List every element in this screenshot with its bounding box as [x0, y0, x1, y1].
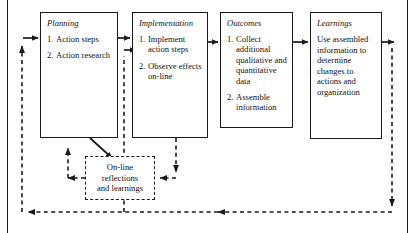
list-item: 2. Action research [47, 50, 112, 60]
item-number: 2. [139, 61, 148, 82]
diagram-canvas: Planning 1. Action steps 2. Action resea… [0, 0, 417, 233]
list-item: 2. Observe effects on-line [139, 61, 202, 82]
stage-title-planning: Planning [47, 18, 112, 29]
list-item: 2. Assemble information [227, 92, 287, 113]
list-item: 1. Collect additional qualitative and qu… [227, 34, 287, 86]
arrow-planning-to-reflections [90, 138, 112, 158]
item-text: Implement action steps [148, 34, 202, 55]
item-number: 2. [47, 50, 56, 60]
item-number: 1. [227, 34, 236, 86]
stage-box-outcomes: Outcomes 1. Collect additional qualitati… [220, 12, 293, 128]
item-number: 1. [47, 34, 56, 44]
item-text: Observe effects on-line [148, 61, 202, 82]
stage-box-learnings: Learnings Use assembled information to d… [310, 12, 382, 139]
stage-items-planning: 1. Action steps 2. Action research [47, 34, 112, 61]
stage-title-learnings: Learnings [317, 18, 376, 29]
list-item: 1. Implement action steps [139, 34, 202, 55]
stage-body-learnings: Use assembled information to determine c… [317, 34, 376, 98]
stage-title-outcomes: Outcomes [227, 18, 287, 29]
feedback-implementation-to-reflections [160, 138, 176, 178]
item-text: Action research [56, 50, 112, 60]
stage-title-implementation: Implementation [139, 18, 202, 29]
feedback-reflections-to-planning [68, 148, 85, 178]
feedback-box-text: On-line reflections and learnings [97, 162, 143, 194]
feedback-line-3: and learnings [97, 183, 143, 194]
feedback-box-online-reflections: On-line reflections and learnings [85, 156, 155, 200]
item-number: 2. [227, 92, 236, 113]
item-text: Assemble information [236, 92, 287, 113]
stage-box-planning: Planning 1. Action steps 2. Action resea… [40, 12, 118, 138]
feedback-line-2: reflections [97, 173, 143, 184]
stage-box-implementation: Implementation 1. Implement action steps… [132, 12, 208, 138]
item-text: Action steps [56, 34, 112, 44]
item-text: Collect additional qualitative and quant… [236, 34, 287, 86]
list-item: 1. Action steps [47, 34, 112, 44]
feedback-line-1: On-line [97, 162, 143, 173]
stage-items-implementation: 1. Implement action steps 2. Observe eff… [139, 34, 202, 82]
item-number: 1. [139, 34, 148, 55]
stage-items-outcomes: 1. Collect additional qualitative and qu… [227, 34, 287, 113]
